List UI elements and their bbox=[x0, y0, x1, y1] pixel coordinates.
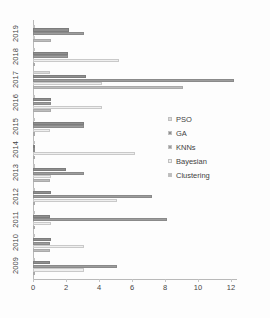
x-axis-tick-mark bbox=[33, 279, 34, 282]
bar-fill bbox=[33, 141, 35, 144]
bar bbox=[33, 36, 231, 39]
bar-fill bbox=[33, 211, 35, 214]
bar bbox=[33, 95, 231, 98]
bar bbox=[33, 25, 231, 28]
bar bbox=[33, 242, 231, 245]
bar-fill bbox=[33, 218, 167, 221]
bar-fill bbox=[33, 118, 35, 121]
bar-fill bbox=[33, 202, 35, 205]
bar-fill bbox=[33, 156, 35, 159]
bar bbox=[33, 258, 231, 261]
bar-group bbox=[33, 22, 231, 45]
bar-fill bbox=[33, 272, 35, 275]
bar-fill bbox=[33, 188, 35, 191]
bar-fill bbox=[33, 238, 51, 241]
x-axis-tick-mark bbox=[231, 279, 232, 282]
legend-label: GA bbox=[176, 129, 187, 138]
bar bbox=[33, 245, 231, 248]
bar bbox=[33, 79, 231, 82]
x-axis-tick-mark bbox=[66, 279, 67, 282]
bar-fill bbox=[33, 79, 234, 82]
bar bbox=[33, 63, 231, 66]
legend-item[interactable]: GA bbox=[168, 126, 264, 140]
bar-fill bbox=[33, 265, 117, 268]
bar-fill bbox=[33, 179, 50, 182]
bar bbox=[33, 215, 231, 218]
bar bbox=[33, 222, 231, 225]
legend-item[interactable]: Bayesian bbox=[168, 154, 264, 168]
bar-fill bbox=[33, 261, 50, 264]
bar-fill bbox=[33, 75, 86, 78]
x-axis-tick-label: 6 bbox=[124, 283, 140, 292]
bar-fill bbox=[33, 125, 84, 128]
bar bbox=[33, 106, 231, 109]
bar-fill bbox=[33, 71, 50, 74]
bar bbox=[33, 98, 231, 101]
bar-fill bbox=[33, 25, 35, 28]
bar-fill bbox=[33, 106, 102, 109]
bar-fill bbox=[33, 168, 66, 171]
bar-fill bbox=[33, 98, 51, 101]
bar-fill bbox=[33, 226, 35, 229]
bar-group bbox=[33, 255, 231, 278]
bar bbox=[33, 226, 231, 229]
bar bbox=[33, 48, 231, 51]
bar-fill bbox=[33, 109, 51, 112]
bar bbox=[33, 82, 231, 85]
bar-fill bbox=[33, 102, 51, 105]
legend-label: KNNs bbox=[176, 143, 196, 152]
chart-legend: PSOGAKNNsBayesianClustering bbox=[168, 112, 264, 182]
bar bbox=[33, 191, 231, 194]
bar-fill bbox=[33, 249, 50, 252]
x-axis-tick-label: 0 bbox=[25, 283, 41, 292]
bar-fill bbox=[33, 191, 51, 194]
bar-fill bbox=[33, 195, 152, 198]
bar bbox=[33, 218, 231, 221]
bar-fill bbox=[33, 129, 50, 132]
bar-fill bbox=[33, 175, 51, 178]
bar bbox=[33, 265, 231, 268]
bar-fill bbox=[33, 164, 35, 167]
x-axis-tick-label: 4 bbox=[91, 283, 107, 292]
bar bbox=[33, 71, 231, 74]
legend-label: Clustering bbox=[176, 171, 210, 180]
legend-item[interactable]: KNNs bbox=[168, 140, 264, 154]
bar-fill bbox=[33, 59, 119, 62]
legend-item[interactable]: PSO bbox=[168, 112, 264, 126]
bar-fill bbox=[33, 36, 35, 39]
bar-fill bbox=[33, 95, 35, 98]
y-axis-tick-label: 2009 bbox=[11, 251, 20, 281]
legend-item[interactable]: Clustering bbox=[168, 168, 264, 182]
bar bbox=[33, 102, 231, 105]
bar-fill bbox=[33, 39, 51, 42]
bar bbox=[33, 52, 231, 55]
bar-fill bbox=[33, 242, 50, 245]
bar-fill bbox=[33, 234, 35, 237]
bar-fill bbox=[33, 28, 69, 31]
legend-swatch-icon bbox=[168, 173, 172, 177]
bar bbox=[33, 86, 231, 89]
legend-swatch-icon bbox=[168, 131, 172, 135]
bar-group bbox=[33, 45, 231, 68]
bar-fill bbox=[33, 172, 84, 175]
bar-fill bbox=[33, 145, 35, 148]
legend-swatch-icon bbox=[168, 145, 172, 149]
bar-fill bbox=[33, 55, 68, 58]
chart-figure: 2019201820172016201520142013201220112010… bbox=[0, 0, 270, 318]
x-axis-line bbox=[33, 279, 237, 280]
legend-label: Bayesian bbox=[176, 157, 207, 166]
bar-group bbox=[33, 69, 231, 92]
bar bbox=[33, 75, 231, 78]
x-axis-tick-mark bbox=[132, 279, 133, 282]
bar-group bbox=[33, 185, 231, 208]
bar-fill bbox=[33, 245, 84, 248]
bar-fill bbox=[33, 152, 135, 155]
x-axis-tick-label: 10 bbox=[190, 283, 206, 292]
bar bbox=[33, 188, 231, 191]
bar bbox=[33, 249, 231, 252]
bar bbox=[33, 261, 231, 264]
bar-fill bbox=[33, 148, 35, 151]
x-axis-tick-mark bbox=[198, 279, 199, 282]
legend-swatch-icon bbox=[168, 159, 172, 163]
bar bbox=[33, 55, 231, 58]
